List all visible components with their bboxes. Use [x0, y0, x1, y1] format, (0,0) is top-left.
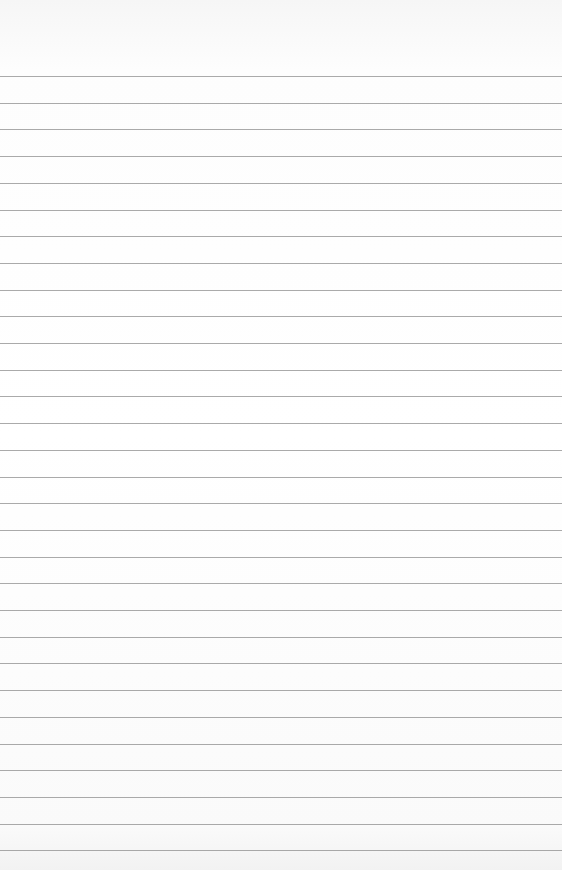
ruled-line: [0, 824, 562, 825]
ruled-line: [0, 316, 562, 317]
ruled-line: [0, 156, 562, 157]
ruled-line: [0, 450, 562, 451]
ruled-line: [0, 370, 562, 371]
ruled-line: [0, 210, 562, 211]
ruled-line: [0, 103, 562, 104]
ruled-line: [0, 797, 562, 798]
ruled-line: [0, 770, 562, 771]
ruled-line: [0, 343, 562, 344]
ruled-line: [0, 290, 562, 291]
ruled-line: [0, 423, 562, 424]
ruled-line: [0, 396, 562, 397]
ruled-line: [0, 717, 562, 718]
ruled-paper: [0, 0, 562, 870]
ruled-line: [0, 477, 562, 478]
ruled-line: [0, 557, 562, 558]
ruled-line: [0, 76, 562, 77]
ruled-line: [0, 663, 562, 664]
ruled-line: [0, 236, 562, 237]
ruled-line: [0, 610, 562, 611]
ruled-line: [0, 583, 562, 584]
ruled-line: [0, 690, 562, 691]
ruled-line: [0, 530, 562, 531]
ruled-line: [0, 850, 562, 851]
ruled-line: [0, 503, 562, 504]
ruled-line: [0, 637, 562, 638]
ruled-line: [0, 129, 562, 130]
ruled-line: [0, 183, 562, 184]
ruled-line: [0, 744, 562, 745]
ruled-line: [0, 263, 562, 264]
